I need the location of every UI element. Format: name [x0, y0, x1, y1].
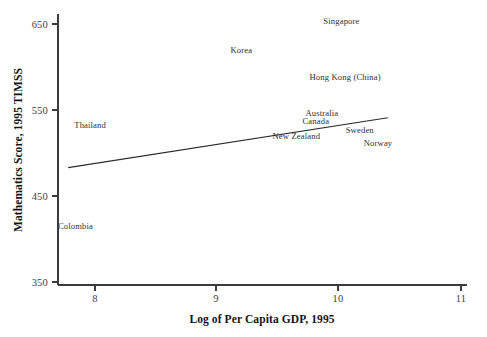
point-label-sweden: Sweden — [346, 125, 374, 134]
x-axis-title: Log of Per Capita GDP, 1995 — [189, 313, 334, 326]
y-tick-label-350: 350 — [32, 277, 48, 288]
point-label-colombia: Colombia — [58, 222, 93, 231]
y-tick-label-650: 650 — [32, 19, 48, 30]
y-tick-label-450: 450 — [32, 191, 48, 202]
point-label-singapore: Singapore — [323, 17, 359, 26]
chart-figure: 650 550 450 350 8 9 10 11 Log of Per Cap… — [0, 0, 487, 337]
point-label-thailand: Thailand — [74, 120, 106, 129]
y-tick-marks — [52, 24, 58, 282]
x-tick-label-10: 10 — [333, 293, 344, 304]
point-label-new-zealand: New Zealand — [272, 132, 320, 141]
point-label-korea: Korea — [231, 46, 253, 55]
x-tick-label-11: 11 — [456, 293, 467, 304]
point-label-hong-kong-china: Hong Kong (China) — [309, 73, 380, 82]
trend-line — [68, 118, 388, 168]
x-tick-marks — [95, 285, 461, 291]
point-label-norway: Norway — [364, 138, 393, 147]
x-tick-label-9: 9 — [213, 293, 218, 304]
x-tick-label-8: 8 — [92, 293, 97, 304]
y-axis-title: Mathematics Score, 1995 TIMSS — [12, 68, 24, 232]
point-label-canada: Canada — [302, 117, 329, 126]
y-tick-label-550: 550 — [32, 105, 48, 116]
